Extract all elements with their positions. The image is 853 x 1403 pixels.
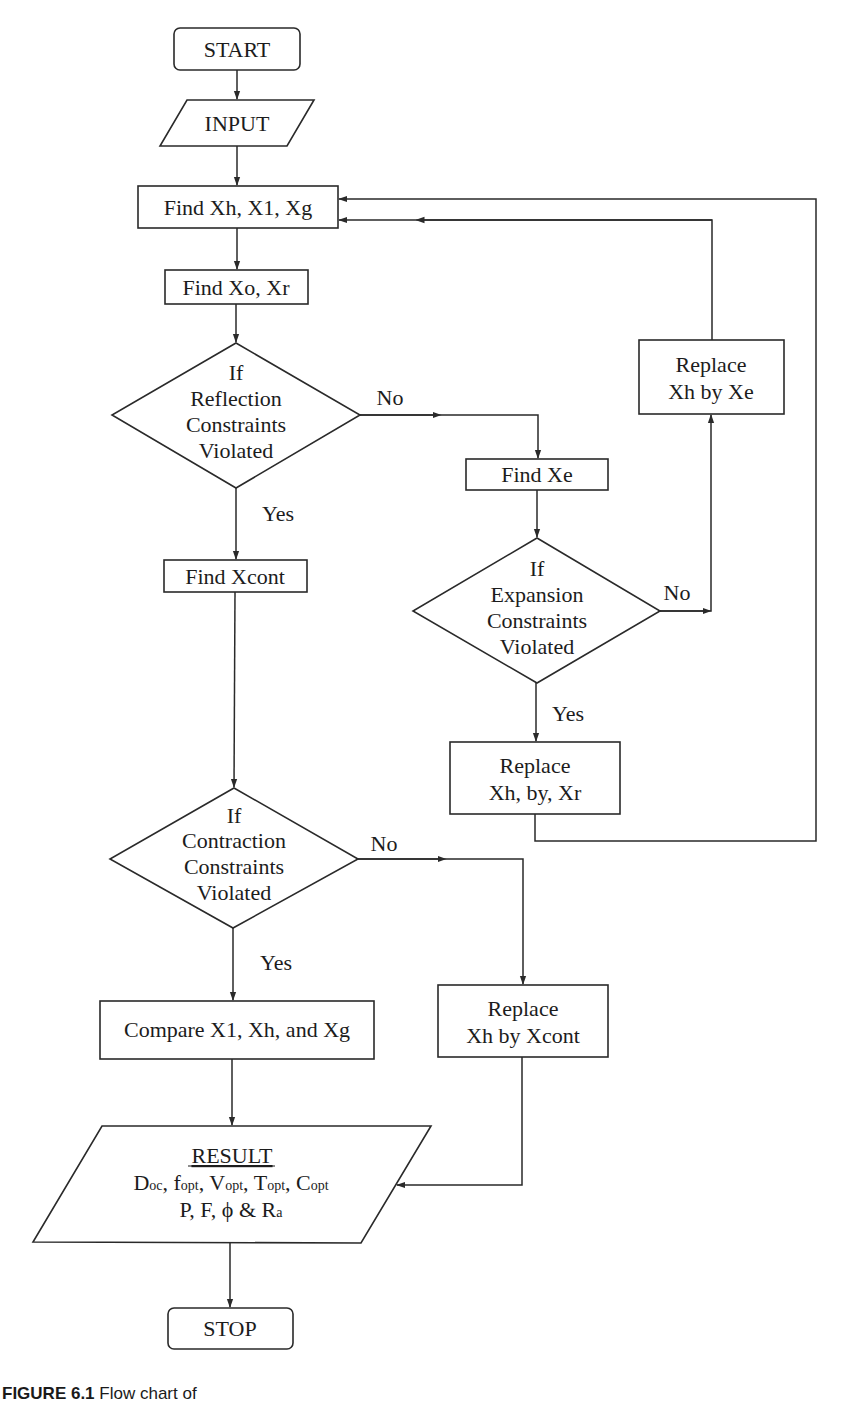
decision-line: Violated: [197, 880, 271, 905]
find-xo-label: Find Xo, Xr: [183, 275, 291, 300]
node-stop: STOP: [168, 1308, 293, 1349]
replace-xcont-line: Replace: [488, 996, 559, 1021]
node-reflection-decision: If Reflection Constraints Violated: [112, 343, 360, 488]
decision-line: Contraction: [182, 828, 286, 853]
node-result: RESULT Doc, fopt, Vopt, Topt, Copt P, F,…: [33, 1126, 431, 1243]
replace-xr-line: Replace: [500, 753, 571, 778]
node-replace-xe: Replace Xh by Xe: [639, 340, 784, 414]
find-xe-label: Find Xe: [501, 462, 573, 487]
reflection-no-label: No: [377, 385, 404, 410]
node-input: INPUT: [160, 100, 314, 146]
decision-line: Constraints: [184, 854, 284, 879]
node-replace-xr: Replace Xh, by, Xr: [450, 742, 620, 814]
replace-xcont-line: Xh by Xcont: [466, 1023, 580, 1048]
decision-line: If: [229, 360, 244, 385]
node-find-xe: Find Xe: [466, 459, 608, 490]
node-find-xh: Find Xh, X1, Xg: [138, 186, 338, 228]
decision-line: If: [530, 556, 545, 581]
contraction-yes-label: Yes: [260, 950, 292, 975]
decision-line: Constraints: [186, 412, 286, 437]
edge-contraction-no: [358, 859, 523, 984]
node-compare: Compare X1, Xh, and Xg: [100, 1001, 374, 1059]
node-find-xcont: Find Xcont: [164, 560, 307, 592]
compare-label: Compare X1, Xh, and Xg: [124, 1017, 350, 1042]
edges: [230, 70, 816, 1307]
find-xcont-label: Find Xcont: [185, 564, 285, 589]
find-xh-label: Find Xh, X1, Xg: [164, 195, 313, 220]
figure-number: FIGURE 6.1: [2, 1384, 95, 1403]
decision-line: Expansion: [491, 582, 584, 607]
node-expansion-decision: If Expansion Constraints Violated: [413, 538, 660, 683]
input-label: INPUT: [205, 111, 270, 136]
edge-findxcont-contraction: [234, 592, 235, 787]
node-replace-xcont: Replace Xh by Xcont: [438, 985, 608, 1057]
caption-text: Flow chart of: [99, 1384, 196, 1403]
replace-xe-line: Xh by Xe: [668, 379, 754, 404]
expansion-no-label: No: [664, 580, 691, 605]
decision-line: Constraints: [487, 608, 587, 633]
edge-replacexe-findxh: [339, 220, 712, 340]
start-label: START: [204, 37, 271, 62]
replace-xr-line: Xh, by, Xr: [489, 780, 582, 805]
figure-caption: FIGURE 6.1 Flow chart of: [2, 1384, 197, 1403]
edge-replacexcont-result: [397, 1057, 522, 1185]
edge-reflection-no: [360, 415, 538, 458]
expansion-yes-label: Yes: [552, 701, 584, 726]
result-title: RESULT: [191, 1143, 273, 1168]
decision-line: Reflection: [190, 386, 282, 411]
node-contraction-decision: If Contraction Constraints Violated: [110, 788, 358, 928]
stop-label: STOP: [203, 1316, 256, 1341]
decision-line: Violated: [500, 634, 574, 659]
decision-line: If: [227, 803, 242, 828]
node-start: START: [174, 28, 300, 70]
decision-line: Violated: [199, 438, 273, 463]
result-line2: P, F, ϕ & Ra: [180, 1197, 284, 1222]
node-find-xo: Find Xo, Xr: [165, 270, 308, 304]
replace-xe-line: Replace: [676, 352, 747, 377]
reflection-yes-label: Yes: [262, 501, 294, 526]
contraction-no-label: No: [371, 831, 398, 856]
